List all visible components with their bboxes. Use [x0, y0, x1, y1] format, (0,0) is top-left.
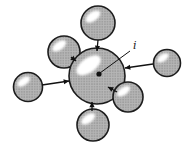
- sphere-left: [14, 73, 43, 102]
- sphere-lower-right: [113, 82, 143, 112]
- bond-left: [42, 81, 69, 85]
- central-molecule-dot: [96, 71, 101, 76]
- sphere-top: [81, 6, 115, 40]
- bond-right: [125, 64, 153, 68]
- molecule-figure: i: [0, 0, 190, 151]
- sphere-bottom: [77, 109, 109, 141]
- molecule-diagram: i: [0, 0, 190, 151]
- sphere-right: [154, 50, 181, 77]
- central-molecule-label: i: [133, 39, 137, 52]
